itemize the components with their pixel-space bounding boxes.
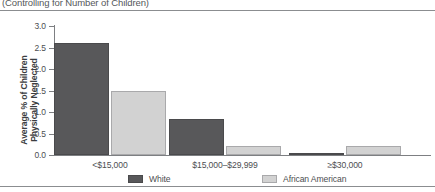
bar-white	[54, 43, 109, 155]
legend-item: African American	[262, 174, 346, 184]
legend-item: White	[128, 174, 170, 184]
y-axis-tick	[49, 26, 54, 27]
plot-area	[55, 26, 431, 155]
bar-white	[169, 119, 224, 155]
legend-label: White	[149, 174, 170, 184]
bar-african-american	[226, 146, 281, 155]
y-axis-tick-label: 0.0	[34, 150, 46, 160]
x-axis-line	[54, 155, 431, 156]
y-axis-tick-label: 3.0	[34, 21, 46, 31]
bar-white	[289, 153, 344, 155]
legend-swatch-icon	[128, 175, 143, 183]
x-axis-label: <$15,000	[92, 160, 127, 170]
y-axis-title: Average % of Children Physically Neglect…	[19, 35, 39, 165]
y-axis-title-line-2: Physically Neglected	[29, 35, 39, 165]
y-axis-title-line-1: Average % of Children	[19, 35, 29, 165]
legend-swatch-icon	[262, 175, 277, 183]
bar-african-american	[346, 146, 401, 155]
x-axis-label: $15,000–$29,999	[192, 160, 257, 170]
bottom-divider-rule	[0, 186, 435, 187]
x-axis-label: ≥$30,000	[328, 160, 363, 170]
chart-figure: (Controlling for Number of Children) Ave…	[0, 0, 435, 192]
top-divider-rule	[0, 10, 435, 11]
y-axis-tick-label: 1.0	[34, 107, 46, 117]
y-axis-tick-label: 0.5	[34, 129, 46, 139]
y-axis-tick-label: 1.5	[34, 86, 46, 96]
chart-title: (Controlling for Number of Children)	[2, 0, 149, 8]
y-axis-tick-label: 2.0	[34, 64, 46, 74]
legend-label: African American	[283, 174, 346, 184]
y-axis-tick	[49, 155, 54, 156]
bar-african-american	[111, 91, 166, 156]
y-axis-tick-label: 2.5	[34, 43, 46, 53]
